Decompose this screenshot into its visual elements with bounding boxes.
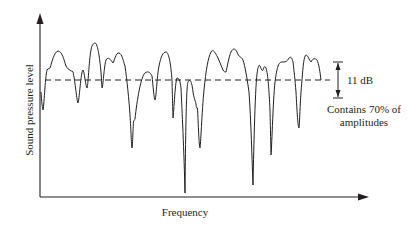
x-axis-arrow-icon [358,194,369,201]
db-range-bracket [333,62,343,98]
bracket-label: 11 dB [347,74,373,86]
bracket-arrow-up-icon [336,63,341,70]
bracket-arrow-down-icon [336,90,341,97]
y-axis-arrow-icon [37,13,44,24]
y-axis-label: Sound pressure level [23,50,35,170]
response-curve [41,43,321,193]
x-axis-label: Frequency [150,206,220,218]
annotation-note: Contains 70% of amplitudes [318,103,409,129]
